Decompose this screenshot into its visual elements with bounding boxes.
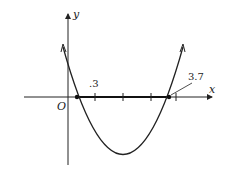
right-root-point xyxy=(167,95,171,99)
y-axis-label: y xyxy=(73,8,79,21)
graph-canvas xyxy=(0,0,226,176)
left-root-label: .3 xyxy=(89,78,99,89)
right-root-label: 3.7 xyxy=(188,71,204,82)
left-root-point xyxy=(75,95,79,99)
leader-line xyxy=(171,83,192,95)
graph: y x O .3 3.7 xyxy=(0,0,226,176)
origin-label: O xyxy=(57,100,66,113)
x-axis-label: x xyxy=(209,83,215,96)
